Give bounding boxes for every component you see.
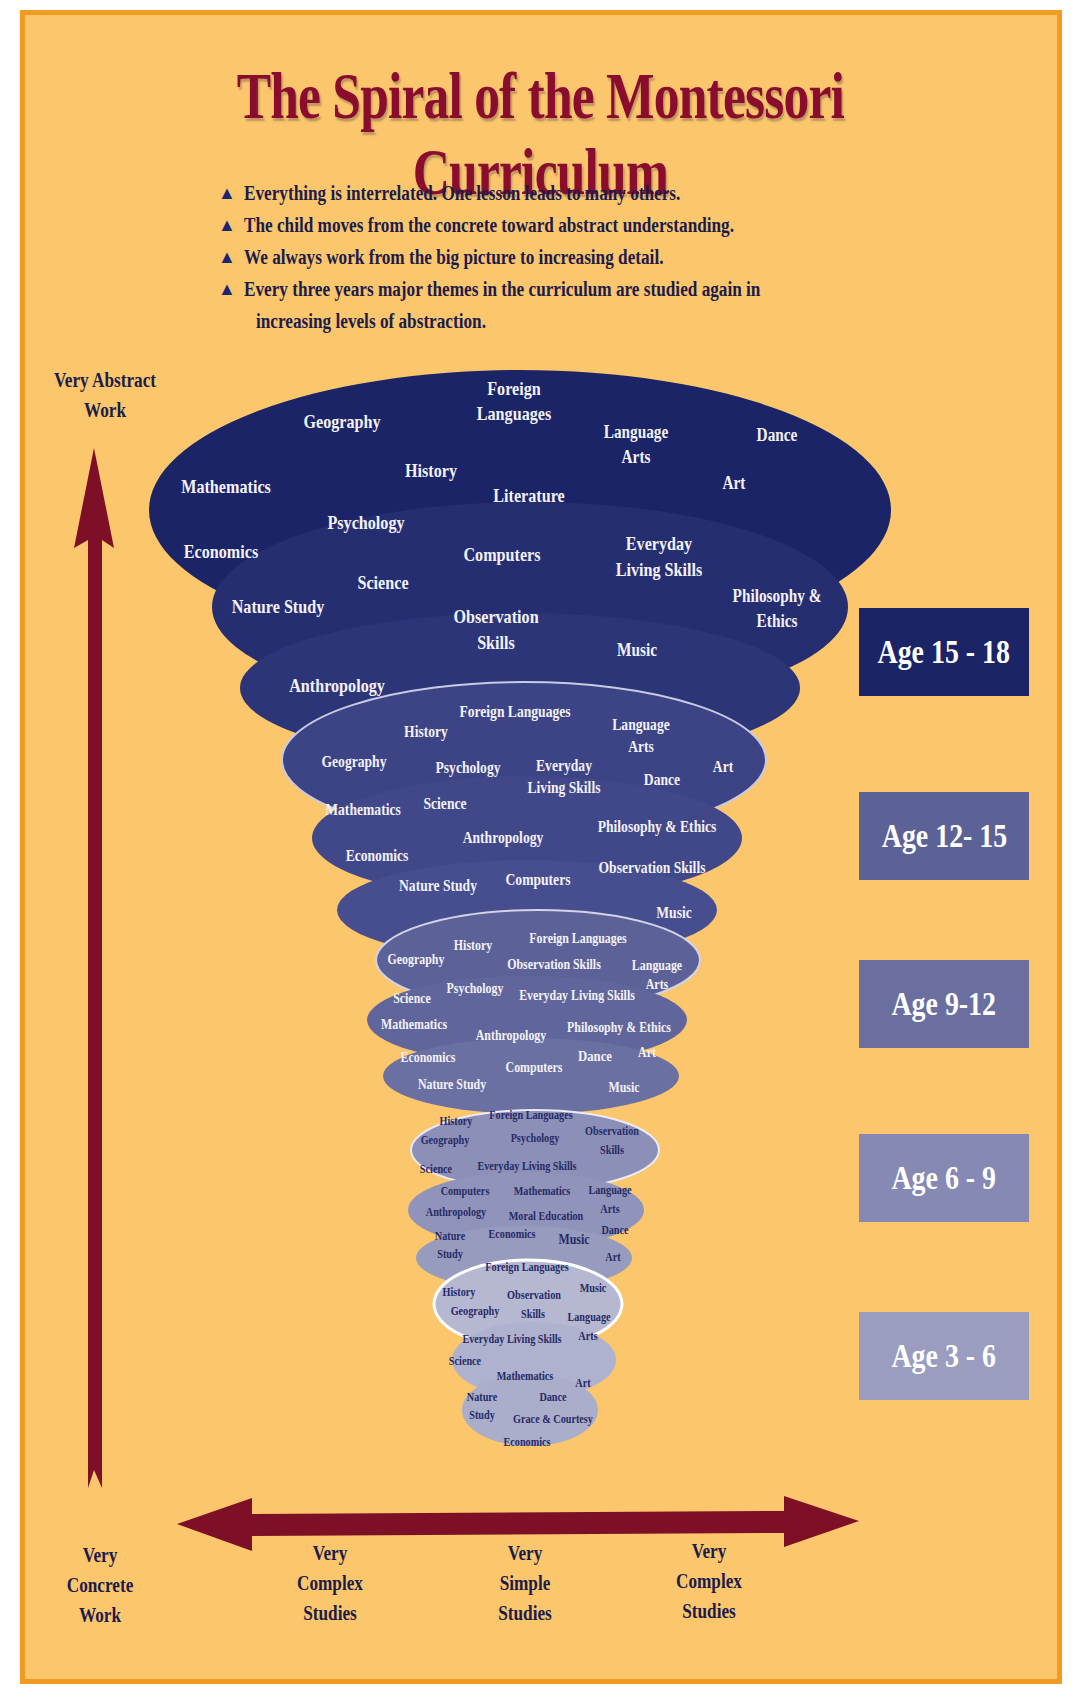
subject-label: Philosophy & Ethics xyxy=(567,1020,671,1036)
subject-label: Economics xyxy=(184,541,258,563)
subject-label: Philosophy & xyxy=(733,586,822,607)
subject-label: Art xyxy=(638,1045,656,1061)
subject-label: Nature Study xyxy=(418,1077,486,1093)
subject-label: Dance xyxy=(644,771,680,789)
subject-label: Living Skills xyxy=(616,559,703,581)
subject-label: Language xyxy=(588,1184,631,1198)
subject-label: Economics xyxy=(488,1228,535,1242)
age-label-15-18: Age 15 - 18 xyxy=(859,608,1029,696)
subject-label: Arts xyxy=(578,1330,597,1344)
subject-label: Observation xyxy=(453,606,538,628)
subject-label: Observation Skills xyxy=(507,957,601,973)
subject-label: Arts xyxy=(600,1203,619,1217)
subject-label: Dance xyxy=(601,1224,628,1238)
subject-label: Art xyxy=(723,473,746,494)
subject-label: History xyxy=(404,723,448,741)
subject-label: Dance xyxy=(539,1391,566,1405)
subject-label: Arts xyxy=(646,977,668,993)
subject-label: Foreign Languages xyxy=(485,1261,568,1275)
age-label-9-12: Age 9-12 xyxy=(859,960,1029,1048)
subject-label: Science xyxy=(449,1355,481,1369)
subject-label: Everyday Living Skills xyxy=(477,1160,576,1174)
subject-label: Arts xyxy=(622,447,651,468)
subject-label: Grace & Courtesy xyxy=(513,1413,593,1427)
subject-label: Computers xyxy=(506,1060,563,1076)
subject-label: Art xyxy=(713,758,733,776)
subject-label: Mathematics xyxy=(497,1370,554,1384)
subject-label: Nature xyxy=(467,1391,497,1405)
subject-label: Moral Education xyxy=(509,1210,584,1224)
subject-label: Foreign Languages xyxy=(529,931,626,947)
subject-label: Dance xyxy=(757,425,798,446)
subject-label: Ethics xyxy=(757,611,798,632)
subject-label: Psychology xyxy=(436,759,501,777)
subject-label: Science xyxy=(357,572,408,594)
subject-label: Languages xyxy=(477,403,551,425)
subject-label: Geography xyxy=(451,1305,500,1319)
subject-label: Foreign Languages xyxy=(489,1109,572,1123)
subject-label: Science xyxy=(420,1163,452,1177)
subject-label: Observation xyxy=(507,1289,561,1303)
subject-label: Philosophy & Ethics xyxy=(598,818,717,836)
subject-label: Anthropology xyxy=(476,1028,547,1044)
subject-label: Anthropology xyxy=(463,829,544,847)
subject-label: Music xyxy=(617,640,657,661)
subject-label: Geography xyxy=(322,753,387,771)
subject-label: Science xyxy=(393,991,431,1007)
subject-label: Everyday xyxy=(536,757,592,775)
subject-label: Anthropology xyxy=(426,1206,486,1220)
subject-label: Geography xyxy=(303,411,380,433)
subject-label: Art xyxy=(575,1377,590,1391)
subject-label: Everyday Living Skills xyxy=(462,1333,561,1347)
subject-label: Computers xyxy=(506,871,571,889)
axis-label-right-complex-studies: Very Complex Studies xyxy=(662,1536,757,1626)
subject-label: Art xyxy=(605,1251,620,1265)
axis-label-very-concrete-work: Very Concrete Work xyxy=(53,1540,148,1630)
subject-label: Mathematics xyxy=(325,801,401,819)
subject-label: Foreign xyxy=(487,378,541,400)
subject-label: Language xyxy=(567,1311,610,1325)
subject-label: History xyxy=(443,1286,476,1300)
subject-label: Psychology xyxy=(511,1132,560,1146)
subject-label: Foreign Languages xyxy=(459,703,570,721)
subject-label: Computers xyxy=(463,544,540,566)
subject-label: Skills xyxy=(477,632,515,654)
subject-label: Arts xyxy=(628,738,654,756)
subject-label: Study xyxy=(469,1409,495,1423)
subject-label: Nature xyxy=(435,1230,465,1244)
subject-label: Music xyxy=(608,1080,639,1096)
subject-label: Nature Study xyxy=(232,596,325,618)
age-label-3-6: Age 3 - 6 xyxy=(859,1312,1029,1400)
subject-label: Nature Study xyxy=(399,877,477,895)
subject-label: Computers xyxy=(441,1185,490,1199)
subject-label: Everyday Living Skills xyxy=(519,988,635,1004)
subject-label: Economics xyxy=(401,1050,456,1066)
subject-label: Observation Skills xyxy=(599,859,706,877)
subject-label: Study xyxy=(437,1248,463,1262)
subject-label: Economics xyxy=(503,1436,550,1450)
subject-label: Literature xyxy=(493,485,564,507)
subject-label: Dance xyxy=(578,1048,612,1065)
axis-label-simple-studies: Very Simple Studies xyxy=(478,1538,573,1628)
subject-label: History xyxy=(440,1115,473,1129)
subject-label: Psychology xyxy=(327,512,404,534)
subject-label: Geography xyxy=(388,952,445,968)
age-label-6-9: Age 6 - 9 xyxy=(859,1134,1029,1222)
axis-label-very-abstract-work: Very Abstract Work xyxy=(49,365,161,425)
subject-label: Language xyxy=(604,422,669,443)
age-label-12-15: Age 12- 15 xyxy=(859,792,1029,880)
subject-label: Anthropology xyxy=(289,675,385,697)
subject-label: History xyxy=(405,460,457,482)
subject-label: Living Skills xyxy=(528,779,601,797)
subject-label: History xyxy=(454,938,492,954)
subject-label: Skills xyxy=(521,1308,545,1322)
subject-label: Science xyxy=(423,795,466,813)
axis-label-left-complex-studies: Very Complex Studies xyxy=(283,1538,378,1628)
subject-label: Mathematics xyxy=(381,1017,447,1033)
vertical-arrow-icon xyxy=(74,448,114,1488)
subject-label: Language xyxy=(632,958,682,974)
subject-label: Observation xyxy=(585,1125,639,1139)
subject-label: Geography xyxy=(421,1134,470,1148)
subject-label: Music xyxy=(656,904,692,922)
subject-label: Music xyxy=(580,1282,607,1296)
